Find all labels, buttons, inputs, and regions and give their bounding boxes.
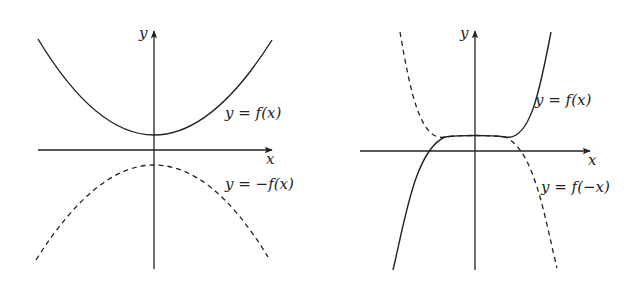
left-x-axis-label: x — [266, 152, 274, 167]
left-dashed-curve-label: y = −f(x) — [225, 177, 294, 192]
left-panel — [36, 31, 272, 269]
right-solid-curve-label: y = f(x) — [535, 93, 591, 108]
left-y-axis-label: y — [139, 26, 147, 41]
right-dashed-curve-label: y = f(−x) — [541, 180, 610, 195]
right-panel — [360, 31, 590, 270]
left-solid-curve-label: y = f(x) — [225, 106, 281, 121]
right-x-axis-label: x — [588, 153, 596, 168]
right-y-axis-label: y — [460, 26, 468, 41]
right-dashed-curve — [400, 32, 557, 268]
diagram-canvas — [0, 0, 627, 283]
